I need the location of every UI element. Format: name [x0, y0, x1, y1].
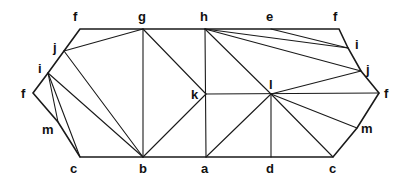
edge-h-l — [205, 29, 271, 94]
vertex-label-k: k — [191, 87, 199, 102]
vertex-label-m_l: m — [42, 122, 54, 137]
vertex-label-f_tr: f — [333, 9, 338, 24]
vertex-label-i_l: i — [38, 61, 42, 76]
vertex-label-g: g — [138, 9, 146, 24]
edge-j_l-g — [64, 29, 143, 51]
vertex-label-l: l — [269, 77, 273, 92]
vertex-label-j_l: j — [52, 40, 57, 55]
edge-h-j_r — [205, 29, 361, 71]
vertex-label-e: e — [266, 9, 273, 24]
edge-g-k — [143, 29, 206, 94]
edge-l-a — [206, 94, 271, 157]
edge-h-a — [205, 29, 206, 157]
edge-k-f_r — [206, 93, 379, 94]
vertex-label-h: h — [200, 9, 208, 24]
vertex-label-m_r: m — [361, 121, 373, 136]
vertex-label-f_tl: f — [73, 9, 78, 24]
edge-k-b — [143, 94, 206, 157]
edge-h-i_r — [205, 29, 348, 48]
net-diagram: fghefjifmcbadcklijfm — [0, 0, 409, 185]
vertex-label-b: b — [139, 161, 147, 176]
edge-l-c_r — [271, 94, 333, 157]
edges-group — [33, 29, 379, 157]
edge-j_l-b — [64, 51, 143, 157]
vertex-label-i_r: i — [355, 37, 359, 52]
edge-e-i_r — [271, 29, 348, 48]
vertex-label-c_l: c — [70, 161, 77, 176]
diagram-canvas: fghefjifmcbadcklijfm — [0, 0, 409, 185]
vertex-label-a: a — [201, 161, 209, 176]
vertex-label-c_r: c — [329, 161, 336, 176]
vertex-label-d: d — [266, 161, 274, 176]
edge-i_l-b — [48, 73, 143, 157]
vertex-label-j_r: j — [365, 62, 370, 77]
vertex-label-f_l: f — [21, 86, 26, 101]
vertex-label-f_r: f — [384, 86, 389, 101]
edge-l-m_r — [271, 94, 357, 128]
edge-l-j_r — [271, 71, 361, 94]
